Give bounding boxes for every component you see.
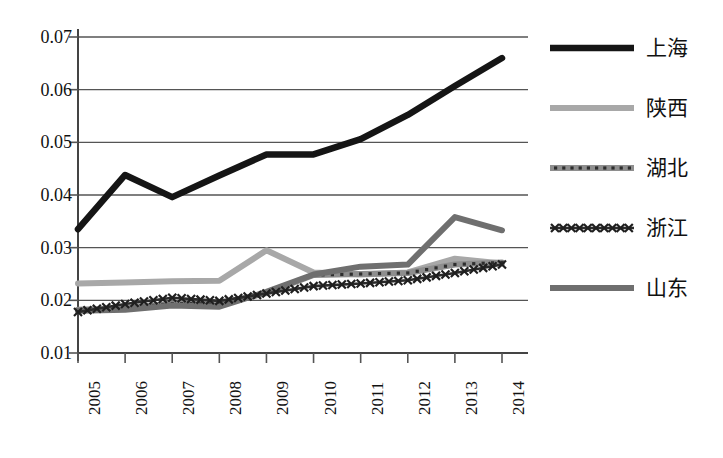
x-tick-label: 2014 xyxy=(510,381,527,415)
x-axis-tick-labels: 2005200620072008200920102011201220132014 xyxy=(0,0,530,458)
x-tick-label: 2013 xyxy=(463,381,480,415)
x-tick-label: 2006 xyxy=(133,381,150,415)
legend-item-4[interactable]: 浙江 xyxy=(548,208,718,248)
line-chart: 0.010.020.030.040.050.060.07 20052006200… xyxy=(0,0,530,420)
legend-swatch-icon xyxy=(548,217,636,239)
legend-label: 上海 xyxy=(646,38,688,59)
legend-swatch-icon xyxy=(548,157,636,179)
legend-label: 陕西 xyxy=(646,98,688,119)
legend-item-1[interactable]: 上海 xyxy=(548,28,718,68)
legend-item-5[interactable]: 山东 xyxy=(548,268,718,308)
figure-container: 0.010.020.030.040.050.060.07 20052006200… xyxy=(0,0,723,458)
legend-swatch-icon xyxy=(548,277,636,299)
x-tick-label: 2008 xyxy=(227,381,244,415)
x-tick-label: 2007 xyxy=(180,381,197,415)
legend-item-3[interactable]: 湖北 xyxy=(548,148,718,188)
legend-label: 浙江 xyxy=(646,218,688,239)
x-tick-label: 2010 xyxy=(322,381,339,415)
legend-label: 山东 xyxy=(646,278,688,299)
x-tick-label: 2009 xyxy=(274,381,291,415)
legend-swatch-icon xyxy=(548,97,636,119)
x-tick-label: 2011 xyxy=(369,382,386,415)
figure-caption xyxy=(0,444,723,458)
chart-legend: 上海陕西湖北浙江山东 xyxy=(548,28,718,328)
x-tick-label: 2012 xyxy=(416,381,433,415)
x-tick-label: 2005 xyxy=(86,381,103,415)
legend-swatch-icon xyxy=(548,37,636,59)
legend-label: 湖北 xyxy=(646,158,688,179)
legend-item-2[interactable]: 陕西 xyxy=(548,88,718,128)
